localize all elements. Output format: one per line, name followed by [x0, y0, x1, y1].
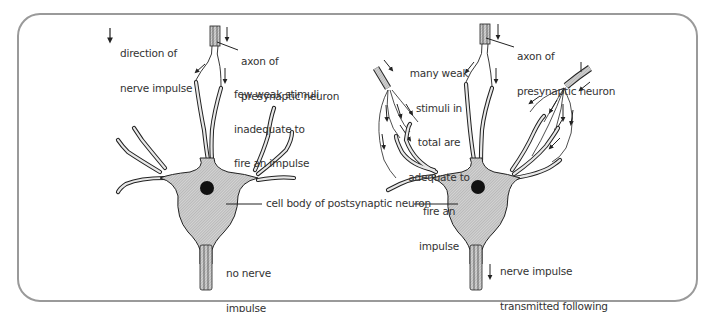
right-output-label: nerve impulse transmitted following summ…: [500, 243, 608, 312]
summation-diagram: direction of nerve impulse axon of presy…: [0, 0, 713, 312]
label-line: no nerve: [226, 268, 285, 280]
right-axon-label: axon of presynaptic neuron: [517, 28, 615, 109]
right-stimulus-label: many weak stimuli in total are adequate …: [396, 45, 482, 264]
label-line: stimuli in: [396, 103, 482, 115]
legend-label-line: nerve impulse: [120, 83, 192, 95]
label-line: fire an impulse: [234, 158, 319, 170]
left-stimulus-label: few weak stimuli inadequate to fire an i…: [234, 66, 319, 181]
label-line: presynaptic neuron: [517, 86, 615, 98]
label-line: adequate to: [396, 172, 482, 184]
legend-label: direction of nerve impulse: [120, 25, 192, 106]
left-output-label: no nerve impulse transmitted: [226, 245, 285, 312]
label-line: inadequate to: [234, 124, 319, 136]
label-line: transmitted following: [500, 301, 608, 312]
label-line: many weak: [396, 68, 482, 80]
label-line: total are: [396, 137, 482, 149]
left-presynaptic-axon: [196, 26, 238, 86]
label-line: axon of: [517, 51, 615, 63]
label-line: impulse: [396, 241, 482, 253]
left-nucleus: [200, 181, 214, 195]
label-line: fire an: [396, 206, 482, 218]
label-line: few weak stimuli: [234, 89, 319, 101]
label-line: impulse: [226, 303, 285, 312]
label-line: nerve impulse: [500, 266, 608, 278]
legend-label-line: direction of: [120, 48, 192, 60]
left-postsynaptic-axon: [200, 245, 212, 290]
